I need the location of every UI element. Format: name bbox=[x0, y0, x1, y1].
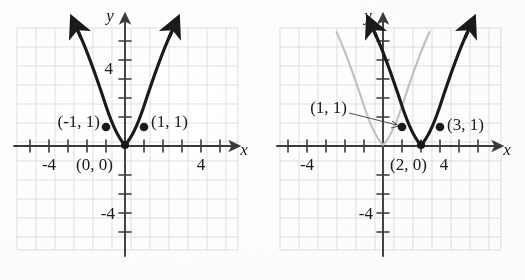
point-neg1-1 bbox=[102, 123, 111, 132]
point-1-1 bbox=[398, 123, 407, 132]
tick-label-y-neg4-right: -4 bbox=[359, 204, 374, 223]
tick-label-x-pos4-left: 4 bbox=[197, 155, 206, 174]
axis-label-x-left: x bbox=[239, 140, 248, 159]
point-label-1-1: (1, 1) bbox=[151, 112, 188, 131]
point-3-1 bbox=[436, 123, 445, 132]
point-1-1 bbox=[140, 123, 149, 132]
figure-background bbox=[0, 0, 525, 280]
point-label-0-0: (0, 0) bbox=[76, 155, 113, 174]
tick-label-x-pos4-right: 4 bbox=[440, 155, 449, 174]
axis-label-x-right: x bbox=[502, 140, 511, 159]
two-parabola-figure: y x -4 4 4 -4 (-1, 1) (1, 1) (0, 0) bbox=[0, 0, 525, 280]
axis-label-y-left: y bbox=[104, 6, 114, 25]
point-2-0 bbox=[417, 141, 425, 149]
axis-label-y-right: y bbox=[362, 6, 372, 25]
tick-label-x-neg4-right: -4 bbox=[300, 155, 315, 174]
point-label-2-0-right: (2, 0) bbox=[390, 155, 427, 174]
tick-label-x-neg4-left: -4 bbox=[42, 155, 57, 174]
point-0-0 bbox=[121, 141, 129, 149]
point-label-3-1-right: (3, 1) bbox=[447, 115, 484, 134]
point-label-neg1-1: (-1, 1) bbox=[58, 112, 100, 131]
tick-label-y-pos4-left: 4 bbox=[105, 59, 114, 78]
point-label-1-1-right: (1, 1) bbox=[310, 98, 347, 117]
tick-label-y-neg4-left: -4 bbox=[101, 204, 116, 223]
